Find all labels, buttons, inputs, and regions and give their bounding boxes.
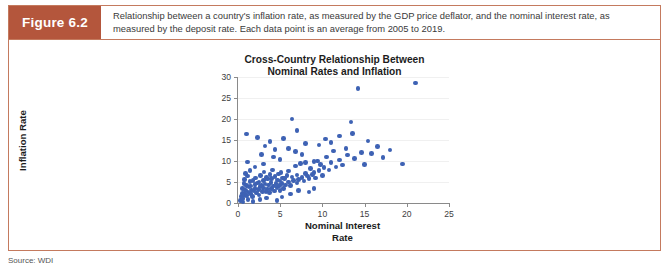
gridline-horizontal <box>238 77 449 78</box>
x-axis-tick-label: 5 <box>278 209 283 219</box>
scatter-point <box>337 158 342 163</box>
y-axis-title: Inflation Rate <box>15 77 29 203</box>
scatter-point <box>307 190 312 195</box>
y-axis-tick-mark <box>234 161 238 162</box>
scatter-point <box>295 128 300 133</box>
y-axis-tick-label: 25 <box>221 93 231 103</box>
scatter-point <box>313 176 318 181</box>
x-axis-tick-label: 15 <box>360 209 370 219</box>
scatter-point <box>413 81 418 86</box>
scatter-point <box>303 160 308 165</box>
x-axis-tick-mark <box>322 203 323 207</box>
scatter-point <box>286 169 291 174</box>
x-axis-tick-mark <box>449 203 450 207</box>
scatter-point <box>366 139 371 144</box>
scatter-point <box>340 163 345 168</box>
scatter-point <box>400 162 405 167</box>
y-axis-tick-mark <box>234 119 238 120</box>
x-axis-title: Nominal Interest Rate <box>237 220 448 243</box>
scatter-point <box>241 200 246 205</box>
figure-caption: Relationship between a country's inflati… <box>101 6 660 39</box>
x-axis-title-line-2: Rate <box>237 232 448 244</box>
y-axis-tick-mark <box>234 98 238 99</box>
scatter-point <box>285 173 290 178</box>
y-axis-tick-mark <box>234 182 238 183</box>
x-axis-title-line-1: Nominal Interest <box>237 220 448 232</box>
figure-number-label: Figure 6.2 <box>22 15 88 30</box>
scatter-point <box>317 168 322 173</box>
scatter-point <box>275 198 280 203</box>
y-axis-tick-label: 5 <box>226 177 231 187</box>
scatter-point <box>279 170 284 175</box>
scatter-point <box>337 134 342 139</box>
scatter-point <box>263 144 268 149</box>
scatter-point <box>286 146 291 151</box>
source-note: Source: WDI <box>8 256 53 265</box>
scatter-point <box>303 141 308 146</box>
y-axis-tick-label: 15 <box>221 135 231 145</box>
scatter-point <box>350 131 355 136</box>
scatter-point <box>248 168 253 173</box>
scatter-point <box>293 149 298 154</box>
scatter-point <box>273 147 278 152</box>
scatter-point <box>288 183 293 188</box>
scatter-point <box>359 150 364 155</box>
scatter-point <box>388 148 393 153</box>
scatter-point <box>278 157 283 162</box>
scatter-point <box>331 149 336 154</box>
scatter-point <box>329 140 334 145</box>
scatter-point <box>293 164 298 169</box>
figure-frame: Figure 6.2 Relationship between a countr… <box>8 5 661 251</box>
scatter-point <box>334 165 339 170</box>
scatter-point <box>296 188 301 193</box>
scatter-point <box>369 151 374 156</box>
scatter-point <box>317 143 322 148</box>
figure-header: Figure 6.2 Relationship between a countr… <box>9 6 660 40</box>
scatter-point <box>320 173 325 178</box>
scatter-point <box>381 155 386 160</box>
scatter-point <box>268 139 273 144</box>
chart-title: Cross-Country Relationship Between Nomin… <box>9 54 660 79</box>
scatter-point <box>352 156 357 161</box>
x-axis-tick-mark <box>238 203 239 207</box>
scatter-point <box>300 152 305 157</box>
gridline-horizontal <box>238 119 449 120</box>
scatter-point <box>243 171 248 176</box>
scatter-point <box>281 136 286 141</box>
y-axis-tick-mark <box>234 77 238 78</box>
scatter-point <box>375 144 380 149</box>
scatter-point <box>329 160 334 165</box>
x-axis-tick-mark <box>365 203 366 207</box>
scatter-point <box>280 195 285 200</box>
scatter-point <box>270 168 275 173</box>
scatter-point <box>344 146 349 151</box>
scatter-point <box>288 192 293 197</box>
y-axis-tick-label: 20 <box>221 114 231 124</box>
y-axis-tick-label: 0 <box>226 198 231 208</box>
gridline-horizontal <box>238 161 449 162</box>
scatter-point <box>261 162 266 167</box>
x-axis-tick-label: 0 <box>236 209 241 219</box>
figure-number-badge: Figure 6.2 <box>9 6 101 39</box>
scatter-point <box>298 161 303 166</box>
gridline-horizontal <box>238 98 449 99</box>
scatter-plot-area: 0510152025300510152025 <box>237 77 449 204</box>
y-axis-tick-label: 10 <box>221 156 231 166</box>
x-axis-tick-label: 10 <box>318 209 328 219</box>
scatter-point <box>290 117 295 122</box>
scatter-point <box>251 199 256 204</box>
x-axis-tick-label: 25 <box>444 209 454 219</box>
scatter-point <box>259 152 264 157</box>
scatter-point <box>324 155 329 160</box>
scatter-point <box>345 153 350 158</box>
scatter-point <box>349 120 354 125</box>
scatter-point <box>271 155 276 160</box>
chart-region: Cross-Country Relationship Between Nomin… <box>9 40 660 250</box>
scatter-point <box>245 160 250 165</box>
scatter-point <box>356 86 361 91</box>
x-axis-tick-mark <box>407 203 408 207</box>
x-axis-tick-mark <box>280 203 281 207</box>
scatter-point <box>312 186 317 191</box>
scatter-point <box>253 165 258 170</box>
scatter-point <box>262 170 267 175</box>
